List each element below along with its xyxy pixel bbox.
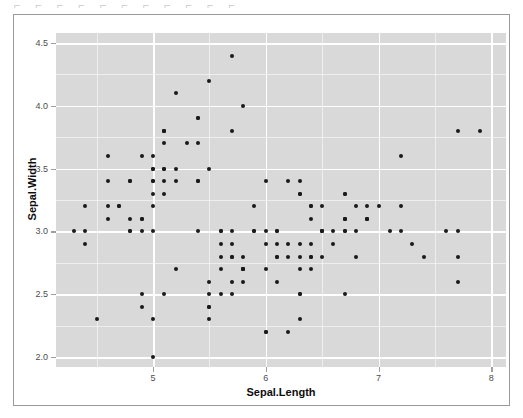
gridline-major-horizontal (56, 357, 506, 359)
data-point (309, 255, 313, 259)
data-point (219, 242, 223, 246)
gridline-major-vertical (266, 33, 268, 367)
data-point (207, 79, 211, 83)
data-point (140, 154, 144, 158)
data-point (230, 255, 234, 259)
plot-area: 56782.02.53.03.54.04.5 Sepal.Length Sepa… (14, 15, 509, 405)
gridline-minor-horizontal (56, 137, 506, 138)
data-point (207, 317, 211, 321)
data-point (286, 179, 290, 183)
data-point (241, 267, 245, 271)
data-point (128, 179, 132, 183)
data-point (95, 317, 99, 321)
data-point (331, 242, 335, 246)
y-axis-label: Sepal.Width (26, 109, 38, 269)
x-axis-label: Sepal.Length (56, 386, 506, 398)
gridline-minor-horizontal (56, 326, 506, 327)
data-point (230, 129, 234, 133)
data-point (264, 267, 268, 271)
data-point (219, 255, 223, 259)
data-point (298, 267, 302, 271)
data-point (298, 242, 302, 246)
data-point (354, 204, 358, 208)
data-point (478, 129, 482, 133)
data-point (298, 192, 302, 196)
data-point (456, 255, 460, 259)
data-point (399, 204, 403, 208)
data-point (410, 242, 414, 246)
y-axis-tick (51, 43, 56, 44)
data-point (140, 292, 144, 296)
data-point (207, 305, 211, 309)
gridline-major-vertical (491, 33, 493, 367)
gridline-major-horizontal (56, 231, 506, 233)
data-point (241, 104, 245, 108)
data-point (151, 355, 155, 359)
data-point (298, 292, 302, 296)
data-point (286, 242, 290, 246)
data-point (174, 267, 178, 271)
data-point (365, 204, 369, 208)
y-axis-tick (51, 294, 56, 295)
data-point (196, 141, 200, 145)
data-point (241, 280, 245, 284)
data-point (275, 255, 279, 259)
data-point (230, 242, 234, 246)
data-point (196, 179, 200, 183)
data-point (196, 116, 200, 120)
y-axis-tick (51, 231, 56, 232)
data-point (286, 255, 290, 259)
gridline-minor-horizontal (56, 200, 506, 201)
data-point (309, 217, 313, 221)
data-point (207, 280, 211, 284)
data-point (365, 217, 369, 221)
data-point (264, 179, 268, 183)
data-point (286, 330, 290, 334)
data-point (140, 305, 144, 309)
data-point (106, 217, 110, 221)
y-axis-tick (51, 357, 56, 358)
data-point (230, 280, 234, 284)
data-point (343, 292, 347, 296)
data-point (140, 217, 144, 221)
data-point (456, 280, 460, 284)
data-point (456, 229, 460, 233)
x-axis-tick (266, 367, 267, 372)
data-point (162, 141, 166, 145)
data-point (83, 204, 87, 208)
data-point (219, 292, 223, 296)
gridline-major-horizontal (56, 43, 506, 45)
data-point (151, 154, 155, 158)
data-point (106, 204, 110, 208)
data-point (219, 267, 223, 271)
x-axis-tick-label: 6 (251, 374, 281, 383)
clipped-header-text: ⌐ ⌐ ⌐ ⌐ ⌐ ⌐ ⌐ ⌐ ⌐ ⌐ ⌐ (0, 0, 523, 13)
plot-frame: 56782.02.53.03.54.04.5 Sepal.Length Sepa… (13, 14, 510, 406)
chart-panel (56, 33, 506, 367)
data-point (241, 255, 245, 259)
data-point (309, 204, 313, 208)
data-point (298, 255, 302, 259)
data-point (456, 129, 460, 133)
data-point (106, 154, 110, 158)
gridline-major-horizontal (56, 106, 506, 108)
data-point (230, 54, 234, 58)
data-point (264, 330, 268, 334)
data-point (320, 255, 324, 259)
data-point (422, 255, 426, 259)
y-axis-tick-label: 2.0 (35, 353, 48, 362)
gridline-major-horizontal (56, 169, 506, 171)
data-point (162, 179, 166, 183)
data-point (275, 242, 279, 246)
x-axis-tick-label: 7 (364, 374, 394, 383)
data-point (174, 91, 178, 95)
gridline-major-vertical (379, 33, 381, 367)
data-point (275, 280, 279, 284)
data-point (174, 179, 178, 183)
data-point (106, 179, 110, 183)
data-point (162, 192, 166, 196)
gridline-major-horizontal (56, 294, 506, 296)
data-point (320, 204, 324, 208)
data-point (343, 217, 347, 221)
y-axis-tick-label: 4.5 (35, 39, 48, 48)
